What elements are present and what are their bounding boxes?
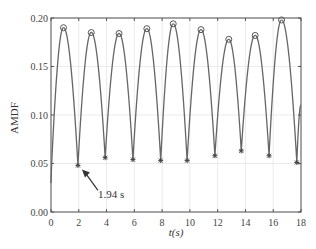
x-tick-label: 2 [76,217,81,228]
y-tick-label: 0.05 [31,158,49,169]
y-tick-label: 0.10 [31,110,49,121]
x-axis-label: t(s) [169,226,184,239]
x-tick-label: 10 [185,217,195,228]
x-tick-label: 0 [49,217,54,228]
trough-marker [158,158,163,163]
amdf-chart: 0.000.050.100.150.20 024681012141618 1.9… [0,0,316,249]
grid-lines [51,18,301,212]
trough-marker [212,153,217,158]
trough-marker [75,163,80,168]
annotation: 1.94 s [82,169,124,200]
trough-marker [185,158,190,163]
y-tick-label: 0.00 [31,207,49,218]
y-tick-label: 0.20 [31,13,49,24]
y-axis-label: AMDF [8,102,20,134]
trough-marker [267,153,272,158]
trough-marker [130,157,135,162]
x-tick-label: 8 [160,217,165,228]
x-tick-label: 16 [268,217,278,228]
trough-marker [294,160,299,165]
x-tick-label: 14 [240,217,250,228]
trough-marker [103,155,108,160]
amdf-curve [51,20,301,183]
annotation-label: 1.94 s [98,188,124,200]
x-tick-label: 18 [296,217,306,228]
x-tick-label: 4 [104,217,109,228]
y-tick-label: 0.15 [31,61,49,72]
trough-marker [239,148,244,153]
x-tick-label: 12 [213,217,223,228]
x-tick-label: 6 [132,217,137,228]
